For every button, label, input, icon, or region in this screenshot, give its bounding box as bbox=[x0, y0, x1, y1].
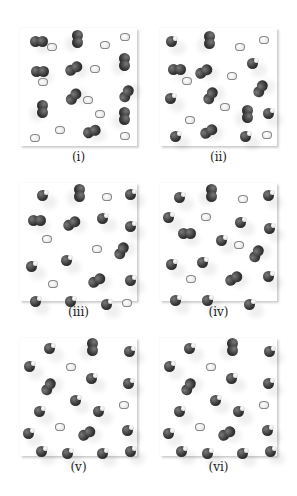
oxygen-molecule-icon bbox=[241, 105, 253, 123]
oxygen-molecule-icon bbox=[30, 36, 48, 48]
oxygen-molecule-icon bbox=[201, 85, 220, 107]
oxygen-molecule-icon bbox=[168, 64, 186, 76]
oxygen-molecule-icon bbox=[178, 228, 196, 240]
oxygen-molecule-icon bbox=[36, 100, 48, 118]
oxygen-molecule-icon bbox=[73, 184, 85, 202]
panel-ii bbox=[160, 28, 277, 146]
oxygen-molecule-icon bbox=[61, 214, 83, 233]
oxygen-molecule-icon bbox=[118, 107, 130, 125]
oxygen-molecule-icon bbox=[76, 424, 98, 443]
panel-label-iv: (iv) bbox=[160, 305, 277, 319]
panel-v bbox=[20, 338, 137, 456]
oxygen-molecule-icon bbox=[39, 376, 58, 398]
oxygen-molecule-icon bbox=[117, 83, 136, 105]
oxygen-molecule-icon bbox=[205, 184, 217, 202]
oxygen-molecule-icon bbox=[198, 122, 220, 141]
oxygen-molecule-icon bbox=[223, 269, 245, 288]
oxygen-molecule-icon bbox=[247, 243, 266, 265]
panel-iv bbox=[160, 183, 277, 301]
oxygen-molecule-icon bbox=[193, 62, 215, 81]
oxygen-molecule-icon bbox=[226, 338, 238, 356]
oxygen-molecule-icon bbox=[81, 123, 102, 140]
panel-label-iii: (iii) bbox=[20, 305, 137, 319]
oxygen-molecule-icon bbox=[31, 66, 49, 78]
panel-label-vi: (vi) bbox=[160, 460, 277, 474]
panel-i bbox=[20, 28, 137, 146]
oxygen-molecule-icon bbox=[112, 240, 131, 262]
oxygen-molecule-icon bbox=[251, 78, 270, 100]
oxygen-molecule-icon bbox=[86, 271, 108, 290]
panel-iii bbox=[20, 183, 137, 301]
oxygen-molecule-icon bbox=[64, 86, 85, 108]
oxygen-molecule-icon bbox=[63, 59, 85, 78]
oxygen-molecule-icon bbox=[179, 376, 198, 398]
oxygen-molecule-icon bbox=[118, 53, 130, 71]
oxygen-molecule-icon bbox=[28, 215, 46, 227]
panel-vi bbox=[160, 338, 277, 456]
panel-label-v: (v) bbox=[20, 460, 137, 474]
panel-label-ii: (ii) bbox=[160, 150, 277, 164]
oxygen-molecule-icon bbox=[71, 30, 83, 48]
oxygen-molecule-icon bbox=[203, 31, 215, 49]
oxygen-molecule-icon bbox=[216, 424, 238, 443]
oxygen-molecule-icon bbox=[86, 338, 98, 356]
panel-label-i: (i) bbox=[20, 150, 137, 164]
